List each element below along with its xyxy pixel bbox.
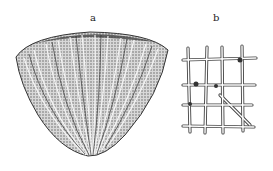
cone-specimen [16, 32, 168, 156]
figure-illustration [0, 0, 273, 171]
